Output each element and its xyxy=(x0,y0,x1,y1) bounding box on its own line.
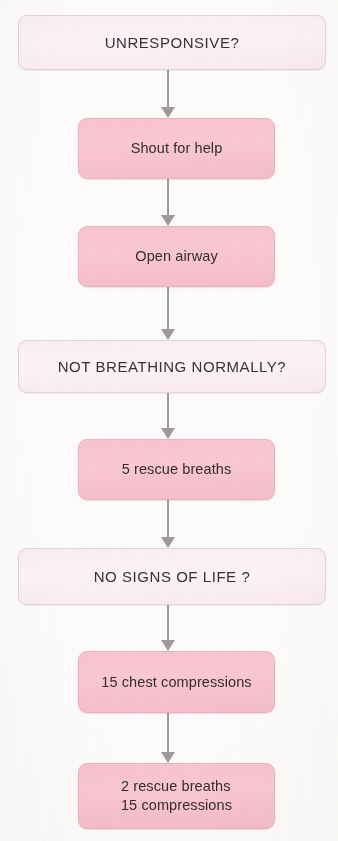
connector-arrow xyxy=(158,713,178,763)
arrow-stem xyxy=(167,713,169,753)
flow-node-label: UNRESPONSIVE? xyxy=(95,33,250,52)
connector-arrow xyxy=(158,500,178,548)
flow-node-shout-for-help: Shout for help xyxy=(78,118,275,179)
connector-arrow xyxy=(158,605,178,651)
flow-node-label: 2 rescue breaths 15 compressions xyxy=(111,777,242,814)
flow-node-label: Open airway xyxy=(125,247,228,266)
arrow-head-icon xyxy=(161,215,175,226)
connector-arrow xyxy=(158,393,178,439)
flow-node-label: Shout for help xyxy=(121,139,233,158)
arrow-stem xyxy=(167,605,169,641)
arrow-stem xyxy=(167,500,169,538)
arrow-stem xyxy=(167,179,169,216)
flow-node-unresponsive: UNRESPONSIVE? xyxy=(18,15,326,70)
flow-node-label: 15 chest compressions xyxy=(91,673,261,692)
flow-node-label: NOT BREATHING NORMALLY? xyxy=(48,357,297,376)
flow-node-label: 5 rescue breaths xyxy=(112,460,242,479)
arrow-head-icon xyxy=(161,329,175,340)
arrow-stem xyxy=(167,70,169,108)
flow-node-two-breaths-fifteen-compressions: 2 rescue breaths 15 compressions xyxy=(78,763,275,829)
flow-node-fifteen-chest-compressions: 15 chest compressions xyxy=(78,651,275,713)
connector-arrow xyxy=(158,287,178,340)
flow-node-open-airway: Open airway xyxy=(78,226,275,287)
arrow-head-icon xyxy=(161,752,175,763)
arrow-head-icon xyxy=(161,428,175,439)
arrow-stem xyxy=(167,287,169,330)
arrow-stem xyxy=(167,393,169,429)
connector-arrow xyxy=(158,179,178,226)
arrow-head-icon xyxy=(161,537,175,548)
arrow-head-icon xyxy=(161,107,175,118)
flow-node-no-signs-of-life: NO SIGNS OF LIFE ? xyxy=(18,548,326,605)
flow-node-five-rescue-breaths: 5 rescue breaths xyxy=(78,439,275,500)
flow-node-not-breathing-normally: NOT BREATHING NORMALLY? xyxy=(18,340,326,393)
flow-node-label: NO SIGNS OF LIFE ? xyxy=(84,567,261,586)
connector-arrow xyxy=(158,70,178,118)
arrow-head-icon xyxy=(161,640,175,651)
flowchart-canvas: UNRESPONSIVE?Shout for helpOpen airwayNO… xyxy=(0,0,338,841)
